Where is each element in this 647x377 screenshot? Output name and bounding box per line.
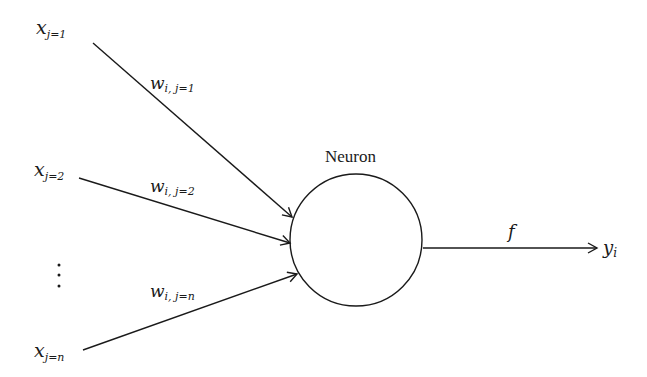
input-edge-n — [83, 274, 297, 350]
input-label-n: xj=n — [34, 339, 64, 364]
neuron-label: Neuron — [325, 147, 376, 166]
weight-label-1: wi, j=1 — [150, 73, 195, 95]
neuron-node — [290, 174, 422, 306]
weight-label-n: wi, j=n — [150, 281, 195, 303]
input-label-2: xj=2 — [34, 158, 64, 183]
activation-function-label: f — [506, 221, 518, 242]
weight-label-2: wi, j=2 — [150, 176, 195, 198]
vertical-ellipsis-icon — [58, 264, 61, 288]
input-label-1: xj=1 — [36, 16, 66, 41]
output-label: yi — [602, 237, 617, 260]
neuron-diagram: Neuron f yi xj=1 xj=2 xj=n wi, j=1 wi, j… — [0, 0, 647, 377]
